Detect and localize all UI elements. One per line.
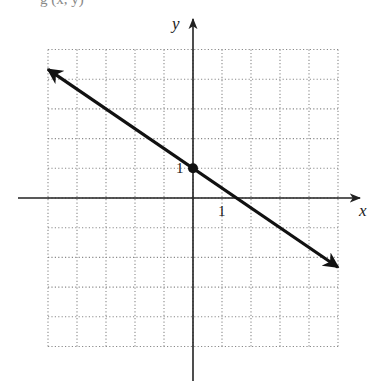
x-axis-label: x xyxy=(359,201,367,221)
coordinate-plane xyxy=(0,0,382,381)
x-tick-label-1: 1 xyxy=(218,203,226,220)
y-tick-label-1: 1 xyxy=(176,160,184,177)
y-axis-label: y xyxy=(172,14,180,34)
